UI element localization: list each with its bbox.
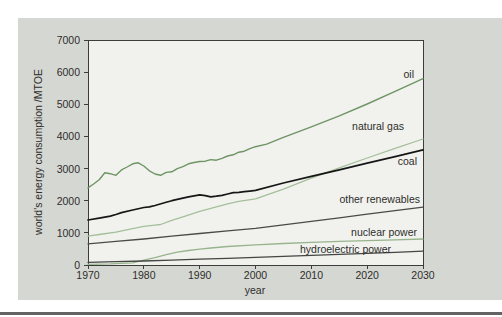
series-label-nuclear-power: nuclear power [351, 226, 417, 238]
series-label-other-renewables: other renewables [339, 193, 420, 205]
x-axis-title: year [235, 284, 275, 296]
x-tick-label: 1970 [66, 269, 110, 281]
x-tick-label: 1990 [178, 269, 222, 281]
bottom-separator [0, 312, 502, 315]
screenshot-canvas: world's energy consumption /MTOE year 01… [0, 0, 502, 317]
series-label-coal: coal [398, 155, 417, 167]
x-tick-label: 2000 [234, 269, 278, 281]
y-tick-label: 7000 [20, 34, 80, 46]
y-tick-label: 6000 [20, 66, 80, 78]
y-tick-label: 1000 [20, 227, 80, 239]
series-label-hydroelectric-power: hydroelectric power [300, 243, 391, 255]
x-tick-label: 2010 [289, 269, 333, 281]
series-label-oil: oil [403, 68, 414, 80]
y-tick-label: 2000 [20, 195, 80, 207]
x-tick-label: 2030 [401, 269, 445, 281]
x-tick-label: 1980 [122, 269, 166, 281]
series-label-natural-gas: natural gas [352, 120, 404, 132]
y-tick-label: 4000 [20, 130, 80, 142]
y-tick-label: 3000 [20, 163, 80, 175]
y-axis-title: world's energy consumption /MTOE [32, 69, 44, 235]
x-tick-label: 2020 [345, 269, 389, 281]
y-tick-label: 5000 [20, 98, 80, 110]
